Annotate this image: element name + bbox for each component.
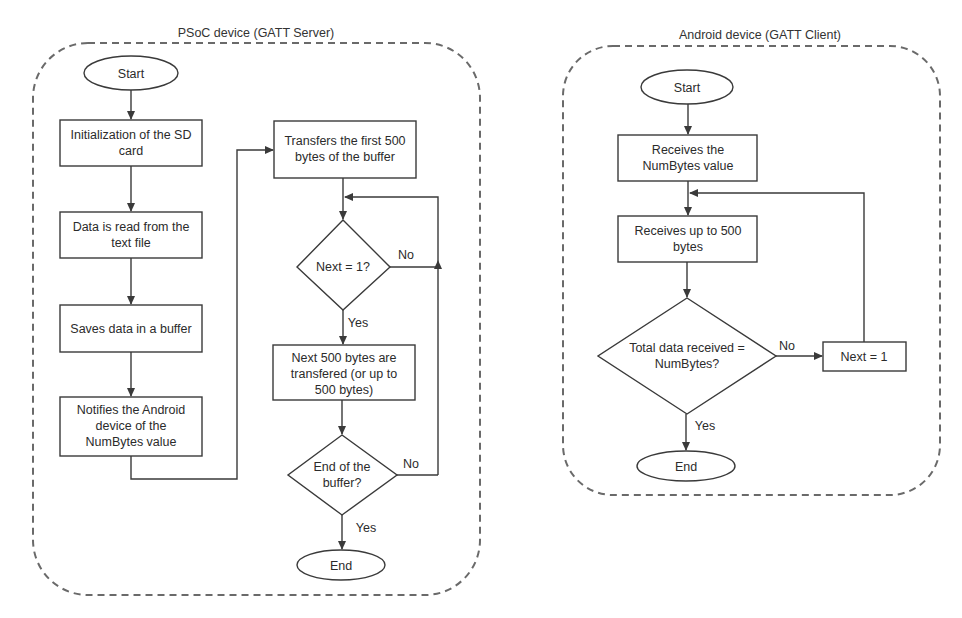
psoc-read-data-node: Data is read from the text file — [60, 212, 202, 258]
psoc-save-buffer-node: Saves data in a buffer — [60, 305, 202, 352]
svg-text:Next 500 bytes are: Next 500 bytes are — [292, 351, 397, 365]
svg-text:Data is read from the: Data is read from the — [73, 220, 190, 234]
svg-text:Start: Start — [674, 81, 701, 95]
svg-text:text file: text file — [111, 236, 151, 250]
psoc-notify-node: Notifies the Android device of the NumBy… — [60, 397, 202, 456]
svg-text:End: End — [330, 559, 352, 573]
android-receive-numbytes-node: Receives the NumBytes value — [618, 135, 757, 181]
label-next-no: No — [398, 248, 414, 262]
label-total-no: No — [779, 339, 795, 353]
svg-text:Start: Start — [118, 67, 145, 81]
svg-text:Receives up to 500: Receives up to 500 — [634, 224, 741, 238]
svg-text:transfered (or up to: transfered (or up to — [291, 367, 397, 381]
psoc-start-node: Start — [84, 56, 178, 90]
svg-text:device of the: device of the — [96, 419, 167, 433]
flowchart-canvas: PSoC device (GATT Server) Start Initiali… — [0, 0, 962, 618]
label-end-no: No — [403, 457, 419, 471]
svg-text:Next = 1: Next = 1 — [841, 350, 888, 364]
android-end-node: End — [637, 451, 735, 481]
svg-text:NumBytes value: NumBytes value — [85, 435, 176, 449]
svg-text:bytes: bytes — [673, 240, 703, 254]
svg-text:Total data received =: Total data received = — [629, 341, 745, 355]
svg-text:NumBytes?: NumBytes? — [655, 357, 720, 371]
psoc-next-decision-node: Next = 1? — [297, 220, 390, 310]
psoc-transfer-next-node: Next 500 bytes are transfered (or up to … — [273, 345, 415, 400]
psoc-end-node: End — [297, 550, 385, 580]
svg-text:End: End — [675, 460, 697, 474]
svg-text:500 bytes): 500 bytes) — [315, 383, 373, 397]
svg-text:Saves data in a buffer: Saves data in a buffer — [70, 322, 191, 336]
android-start-node: Start — [641, 70, 733, 104]
psoc-end-buffer-decision-node: End of the buffer? — [288, 435, 397, 515]
psoc-init-sd-node: Initialization of the SD card — [60, 120, 202, 166]
svg-text:buffer?: buffer? — [323, 476, 362, 490]
label-end-yes: Yes — [356, 521, 376, 535]
svg-text:Receives the: Receives the — [652, 143, 724, 157]
label-total-yes: Yes — [695, 419, 715, 433]
android-panel: Android device (GATT Client) Start Recei… — [563, 28, 940, 495]
android-set-next-node: Next = 1 — [823, 342, 906, 371]
svg-text:Transfers the first 500: Transfers the first 500 — [284, 134, 405, 148]
android-container — [563, 46, 940, 495]
android-receive-bytes-node: Receives up to 500 bytes — [618, 216, 757, 262]
svg-text:Notifies the Android: Notifies the Android — [77, 403, 185, 417]
svg-text:Next = 1?: Next = 1? — [316, 260, 370, 274]
psoc-panel: PSoC device (GATT Server) Start Initiali… — [33, 26, 480, 595]
svg-text:card: card — [119, 144, 143, 158]
svg-text:Initialization of the SD: Initialization of the SD — [71, 128, 192, 142]
android-panel-title: Android device (GATT Client) — [679, 28, 841, 42]
android-total-decision-node: Total data received = NumBytes? — [598, 298, 776, 414]
label-next-yes: Yes — [348, 316, 368, 330]
psoc-transfer-first-node: Transfers the first 500 bytes of the buf… — [274, 121, 416, 178]
arrow-up-icon — [434, 260, 442, 269]
svg-text:NumBytes value: NumBytes value — [642, 159, 733, 173]
svg-text:End of the: End of the — [314, 460, 371, 474]
svg-text:bytes of the buffer: bytes of the buffer — [295, 150, 395, 164]
psoc-panel-title: PSoC device (GATT Server) — [178, 26, 335, 40]
